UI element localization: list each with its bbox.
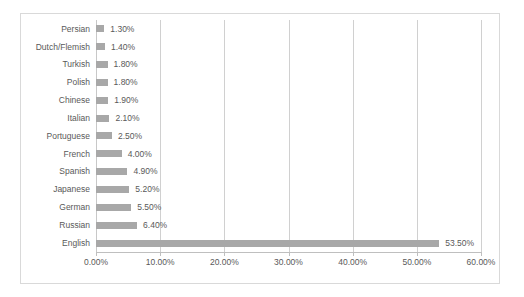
bar-row: Spanish4.90% xyxy=(21,163,501,181)
bar-value-label: 5.20% xyxy=(135,185,159,194)
bar[interactable] xyxy=(96,150,122,157)
bar-row: French4.00% xyxy=(21,145,501,163)
x-tick-label: 10.00% xyxy=(146,258,175,267)
category-label: French xyxy=(21,150,96,159)
x-tick-label: 40.00% xyxy=(338,258,367,267)
bar[interactable] xyxy=(96,61,108,68)
x-tick-mark-30 xyxy=(289,252,290,256)
bar-row: Dutch/Flemish1.40% xyxy=(21,38,501,56)
bar[interactable] xyxy=(96,204,131,211)
bar[interactable] xyxy=(96,43,105,50)
bar-value-label: 2.50% xyxy=(118,132,142,141)
bar-value-label: 1.40% xyxy=(111,43,135,52)
bar[interactable] xyxy=(96,186,129,193)
x-tick-label: 0.00% xyxy=(84,258,108,267)
bar-row: Russian6.40% xyxy=(21,216,501,234)
x-axis-tick-labels: 0.00%10.00%20.00%30.00%40.00%50.00%60.00… xyxy=(21,258,501,274)
x-tick-mark-60 xyxy=(481,252,482,256)
bar[interactable] xyxy=(96,97,108,104)
bar-value-label: 6.40% xyxy=(143,221,167,230)
bar[interactable] xyxy=(96,115,109,122)
bar-zone: 1.90% xyxy=(96,91,501,109)
bar[interactable] xyxy=(96,132,112,139)
category-label: Persian xyxy=(21,25,96,34)
bar-zone: 1.30% xyxy=(96,20,501,38)
bar-zone: 5.50% xyxy=(96,198,501,216)
bar-zone: 6.40% xyxy=(96,216,501,234)
bar[interactable] xyxy=(96,25,104,32)
bar-value-label: 1.30% xyxy=(110,25,134,34)
bar-row: Turkish1.80% xyxy=(21,56,501,74)
bar-zone: 5.20% xyxy=(96,181,501,199)
bar-value-label: 1.80% xyxy=(114,60,138,69)
bar-row: English53.50% xyxy=(21,234,501,252)
bar-zone: 1.80% xyxy=(96,56,501,74)
bar-value-label: 53.50% xyxy=(445,239,474,248)
category-label: English xyxy=(21,239,96,248)
category-label: Italian xyxy=(21,114,96,123)
bar-row: German5.50% xyxy=(21,198,501,216)
x-tick-mark-40 xyxy=(353,252,354,256)
bar[interactable] xyxy=(96,240,439,247)
x-tick-label: 30.00% xyxy=(274,258,303,267)
bar-row: Chinese1.90% xyxy=(21,91,501,109)
bar-zone: 4.90% xyxy=(96,163,501,181)
chart-frame: Persian1.30%Dutch/Flemish1.40%Turkish1.8… xyxy=(20,13,500,284)
category-label: Dutch/Flemish xyxy=(21,43,96,52)
x-tick-label: 20.00% xyxy=(210,258,239,267)
bar-rows: Persian1.30%Dutch/Flemish1.40%Turkish1.8… xyxy=(21,20,501,252)
bar[interactable] xyxy=(96,168,127,175)
bar-value-label: 1.80% xyxy=(114,78,138,87)
category-label: Japanese xyxy=(21,185,96,194)
bar-zone: 53.50% xyxy=(96,234,501,252)
x-tick-mark-0 xyxy=(96,252,97,256)
bar-value-label: 1.90% xyxy=(114,96,138,105)
plot-area: Persian1.30%Dutch/Flemish1.40%Turkish1.8… xyxy=(21,14,501,285)
x-tick-label: 50.00% xyxy=(402,258,431,267)
x-tick-label: 60.00% xyxy=(467,258,496,267)
bar-row: Japanese5.20% xyxy=(21,181,501,199)
category-label: German xyxy=(21,203,96,212)
category-label: Chinese xyxy=(21,96,96,105)
bar[interactable] xyxy=(96,79,108,86)
bar-zone: 2.10% xyxy=(96,109,501,127)
x-tick-mark-50 xyxy=(417,252,418,256)
x-tick-mark-10 xyxy=(160,252,161,256)
x-tick-mark-20 xyxy=(224,252,225,256)
bar-zone: 1.40% xyxy=(96,38,501,56)
bar-zone: 1.80% xyxy=(96,74,501,92)
bar-value-label: 2.10% xyxy=(115,114,139,123)
category-label: Russian xyxy=(21,221,96,230)
bar-zone: 2.50% xyxy=(96,127,501,145)
bar-row: Italian2.10% xyxy=(21,109,501,127)
category-label: Spanish xyxy=(21,167,96,176)
bar-zone: 4.00% xyxy=(96,145,501,163)
category-label: Turkish xyxy=(21,60,96,69)
bar-row: Portuguese2.50% xyxy=(21,127,501,145)
bar-value-label: 5.50% xyxy=(137,203,161,212)
category-label: Polish xyxy=(21,78,96,87)
category-label: Portuguese xyxy=(21,132,96,141)
bar-value-label: 4.00% xyxy=(128,150,152,159)
bar-row: Persian1.30% xyxy=(21,20,501,38)
bar-value-label: 4.90% xyxy=(133,167,157,176)
bar-row: Polish1.80% xyxy=(21,74,501,92)
bar[interactable] xyxy=(96,222,137,229)
